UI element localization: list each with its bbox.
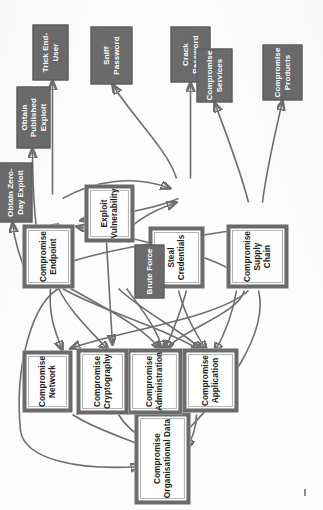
node-label: Brute Force xyxy=(144,246,154,296)
node-exploit-vulnerability[interactable]: Exploit Vulnerability xyxy=(84,184,134,242)
node-compromise-organisational-data[interactable]: Compromise Organisational Data xyxy=(134,412,190,504)
node-label: Steal Credentials xyxy=(166,230,186,284)
node-compromise-administration[interactable]: Compromise Administration xyxy=(126,348,182,414)
node-compromise-cryptography[interactable]: Compromise Cryptography xyxy=(76,348,128,414)
node-label: Compromise Administration xyxy=(144,349,164,412)
node-obtain-published-exploit[interactable]: Obtain Published Exploit xyxy=(16,86,50,148)
node-compromise-application[interactable]: Compromise Application xyxy=(182,348,238,412)
node-label: Exploit Vulnerability xyxy=(99,186,119,240)
node-label: Compromise Supply Chain xyxy=(242,228,272,284)
node-compromise-network[interactable]: Compromise Network xyxy=(22,350,72,412)
node-obtain-zero-day-exploit[interactable]: Obtain Zero-Day Exploit xyxy=(0,162,32,222)
node-compromise-supply-chain[interactable]: Compromise Supply Chain xyxy=(226,224,288,288)
node-compromise-endpoint[interactable]: Compromise Endpoint xyxy=(22,224,74,288)
node-compromise-services[interactable]: Compromise Services xyxy=(196,48,232,102)
node-label: Sniff Password xyxy=(101,27,120,83)
node-label: Compromise Network xyxy=(37,353,57,408)
node-sniff-password[interactable]: Sniff Password xyxy=(90,26,132,84)
node-compromise-products[interactable]: Compromise Products xyxy=(262,44,302,100)
node-label: Compromise Organisational Data xyxy=(152,416,172,500)
node-label: Trick End-User xyxy=(40,25,59,79)
node-label: Compromise Products xyxy=(272,45,291,99)
page-corner-mark xyxy=(304,489,306,496)
node-label: Obtain Published Exploit xyxy=(19,87,48,147)
node-label: Compromise Endpoint xyxy=(38,228,58,284)
node-label: Compromise Cryptography xyxy=(92,352,112,411)
diagram-canvas: Compromise Organisational Data Compromis… xyxy=(0,0,323,510)
node-label: Compromise Application xyxy=(200,352,220,408)
attack-tree-diagram: Compromise Organisational Data Compromis… xyxy=(0,0,323,510)
node-label: Compromise Services xyxy=(204,48,223,102)
node-label: Obtain Zero-Day Exploit xyxy=(5,163,24,221)
node-trick-end-user[interactable]: Trick End-User xyxy=(32,24,68,80)
node-brute-force[interactable]: Brute Force xyxy=(134,244,164,298)
